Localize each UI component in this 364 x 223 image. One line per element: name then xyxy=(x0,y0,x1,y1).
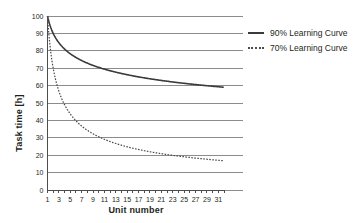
y-tick-label: 70 xyxy=(36,65,44,72)
x-tick-label: 11 xyxy=(101,196,108,203)
y-tick-label: 50 xyxy=(36,100,44,107)
y-tick-label: 10 xyxy=(36,169,44,176)
legend-swatch-solid-icon xyxy=(248,32,264,34)
x-tick-label: 7 xyxy=(80,196,84,203)
x-tick-label: 13 xyxy=(112,196,120,203)
legend-item-90: 90% Learning Curve xyxy=(248,25,348,40)
x-tick-label: 15 xyxy=(123,196,131,203)
y-tick-label: 100 xyxy=(32,13,44,20)
legend-label-90: 90% Learning Curve xyxy=(270,28,348,38)
legend-item-70: 70% Learning Curve xyxy=(248,40,348,55)
x-tick-label: 17 xyxy=(135,196,143,203)
y-tick-label: 90 xyxy=(36,30,44,37)
x-tick-label: 31 xyxy=(214,196,222,203)
y-tick-label: 40 xyxy=(36,117,44,124)
curve-70 xyxy=(48,16,224,161)
curve-90 xyxy=(48,16,224,87)
x-tick-label: 29 xyxy=(203,196,211,203)
x-tick-label: 27 xyxy=(192,196,200,203)
data-curves-group xyxy=(48,16,224,161)
x-tick-label: 23 xyxy=(169,196,177,203)
learning-curve-chart: Task time [h] Unit number 01020304050607… xyxy=(0,0,364,223)
y-tick-label: 80 xyxy=(36,47,44,54)
y-tick-label: 20 xyxy=(36,152,44,159)
x-tick-label: 3 xyxy=(57,196,61,203)
y-tick-label: 30 xyxy=(36,134,44,141)
x-tick-label: 9 xyxy=(91,196,95,203)
gridlines-group xyxy=(48,16,244,190)
x-tick-label: 1 xyxy=(46,196,50,203)
x-tick-label: 21 xyxy=(157,196,165,203)
legend-swatch-dotted-icon xyxy=(248,47,264,49)
x-tick-label: 25 xyxy=(180,196,188,203)
x-tick-label: 19 xyxy=(146,196,154,203)
x-tick-label: 5 xyxy=(68,196,72,203)
y-tick-label: 60 xyxy=(36,82,44,89)
legend: 90% Learning Curve 70% Learning Curve xyxy=(248,25,348,55)
y-tick-labels-group: 0102030405060708090100 xyxy=(32,13,44,194)
x-tick-labels-group: 135791113151719212325272931 xyxy=(46,196,223,203)
y-tick-label: 0 xyxy=(40,187,44,194)
legend-label-70: 70% Learning Curve xyxy=(270,43,348,53)
